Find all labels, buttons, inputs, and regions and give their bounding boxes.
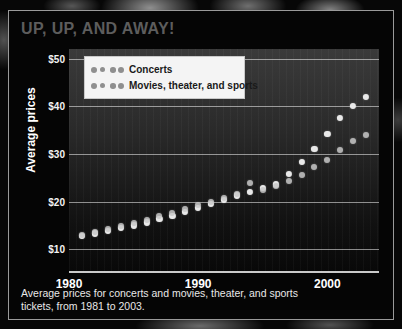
legend-marker-concerts xyxy=(91,64,125,74)
chart-figure: Average prices $10$20$30$40$50 198019902… xyxy=(9,11,394,320)
data-point xyxy=(247,180,253,186)
figure-caption: Average prices for concerts and movies, … xyxy=(21,287,381,313)
y-tick-label: $30 xyxy=(48,148,65,159)
legend-item: Movies, theater, and sports xyxy=(91,77,238,93)
data-point xyxy=(299,172,305,178)
data-point xyxy=(195,202,201,208)
gridline xyxy=(69,154,379,155)
y-tick-label: $40 xyxy=(48,101,65,112)
caption-line-1: Average prices for concerts and movies, … xyxy=(21,287,381,300)
legend-label: Movies, theater, and sports xyxy=(129,80,258,91)
data-point xyxy=(324,157,330,163)
data-point xyxy=(208,199,214,205)
y-axis-tick-labels: $10$20$30$40$50 xyxy=(9,49,65,273)
data-point xyxy=(118,223,124,229)
y-tick-label: $10 xyxy=(48,244,65,255)
data-point xyxy=(350,138,356,144)
data-point xyxy=(234,191,240,197)
legend-marker-movies xyxy=(91,80,125,90)
data-point xyxy=(105,226,111,232)
data-point xyxy=(221,195,227,201)
x-axis-line xyxy=(69,271,379,273)
data-point xyxy=(144,217,150,223)
y-tick-label: $20 xyxy=(48,196,65,207)
data-point xyxy=(156,213,162,219)
data-point xyxy=(337,147,343,153)
legend-label: Concerts xyxy=(129,64,172,75)
caption-line-2: tickets, from 1981 to 2003. xyxy=(21,300,381,313)
data-point xyxy=(79,232,85,238)
gridline xyxy=(69,249,379,250)
data-point xyxy=(131,220,137,226)
data-point xyxy=(92,229,98,235)
y-tick-label: $50 xyxy=(48,53,65,64)
gridline xyxy=(69,106,379,107)
data-point xyxy=(169,210,175,216)
data-point xyxy=(363,132,369,138)
chart-card: UP, UP, AND AWAY! Average prices $10$20$… xyxy=(8,10,394,320)
data-point xyxy=(260,187,266,193)
data-point xyxy=(311,164,317,170)
data-point xyxy=(182,206,188,212)
data-point xyxy=(273,183,279,189)
chart-legend: Concerts Movies, theater, and sports xyxy=(84,56,245,99)
data-point xyxy=(286,178,292,184)
legend-item: Concerts xyxy=(91,61,238,77)
